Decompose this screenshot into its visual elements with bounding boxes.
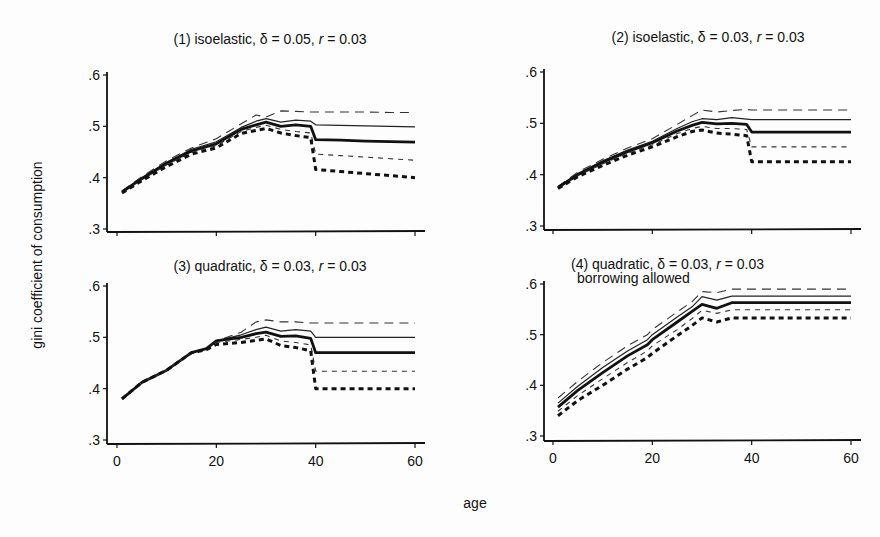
x-tick-label: 20 [209, 453, 225, 469]
y-tick-label: .5 [525, 327, 537, 343]
y-tick-label: .6 [525, 64, 537, 80]
series-line [122, 339, 415, 399]
x-tick-label: 0 [113, 453, 121, 469]
figure: (1) isoelastic, δ = 0.05, r = 0.03.3.4.5… [0, 0, 880, 537]
y-tick-label: .5 [88, 329, 100, 345]
series-line [558, 126, 851, 188]
series-line [558, 296, 851, 403]
panel-2: (2) isoelastic, δ = 0.03, r = 0.03.3.4.5… [525, 29, 861, 234]
x-axis [544, 440, 861, 441]
y-axis-label: gini coefficient of consumption [29, 161, 45, 348]
series-line [558, 310, 851, 411]
series-line [558, 318, 851, 416]
panel-4: (4) quadratic, δ = 0.03, r = 0.03borrowi… [525, 256, 861, 466]
panel-subtitle: borrowing allowed [577, 270, 690, 286]
x-axis [107, 231, 425, 232]
chart-panels: (1) isoelastic, δ = 0.05, r = 0.03.3.4.5… [0, 0, 880, 537]
y-tick-label: .5 [88, 118, 100, 134]
y-tick-label: .4 [88, 170, 100, 186]
y-tick-label: .5 [525, 115, 537, 131]
series-line [558, 122, 851, 187]
x-axis-label: age [463, 495, 486, 511]
y-tick-label: .4 [88, 381, 100, 397]
panel-title: (3) quadratic, δ = 0.03, r = 0.03 [173, 258, 366, 274]
y-tick-label: .6 [88, 67, 100, 83]
x-axis [544, 229, 861, 230]
series-line [558, 118, 851, 187]
x-tick-label: 60 [407, 453, 423, 469]
panel-1: (1) isoelastic, δ = 0.05, r = 0.03.3.4.5… [88, 31, 425, 237]
panel-3: (3) quadratic, δ = 0.03, r = 0.03.3.4.5.… [88, 258, 425, 469]
x-tick-label: 0 [549, 450, 557, 466]
y-tick-label: .4 [525, 167, 537, 183]
y-tick-label: .3 [88, 221, 100, 237]
y-tick-label: .3 [525, 218, 537, 234]
panel-title: (2) isoelastic, δ = 0.03, r = 0.03 [611, 29, 804, 45]
y-tick-label: .6 [525, 276, 537, 292]
y-tick-label: .4 [525, 377, 537, 393]
y-tick-label: .3 [525, 428, 537, 444]
x-tick-label: 20 [645, 450, 661, 466]
y-tick-label: .6 [88, 278, 100, 294]
series-line [122, 125, 415, 192]
x-tick-label: 60 [843, 450, 859, 466]
series-line [558, 110, 851, 187]
y-tick-label: .3 [88, 432, 100, 448]
x-tick-label: 40 [744, 450, 760, 466]
panel-title: (1) isoelastic, δ = 0.05, r = 0.03 [173, 31, 366, 47]
x-axis [107, 443, 425, 444]
x-tick-label: 40 [308, 453, 324, 469]
